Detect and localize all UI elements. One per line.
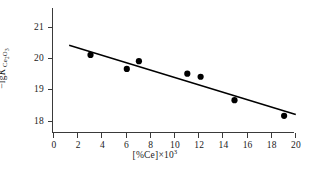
x-tick-10: 10 (174, 133, 175, 138)
x-tick-2: 2 (77, 133, 78, 138)
y-tick-21: 21 (48, 27, 53, 28)
data-point (198, 74, 204, 80)
x-tick-16: 16 (247, 133, 248, 138)
x-tick-14: 14 (222, 133, 223, 138)
x-tick-8: 8 (150, 133, 151, 138)
y-axis-title: −lgK′Ce2O3 (0, 48, 9, 88)
plot-svg (53, 8, 295, 133)
data-point (281, 113, 287, 119)
fit-line (70, 46, 295, 115)
y-axis-title-prime: ′ (0, 67, 4, 69)
y-axis-title-symbol: K (0, 69, 7, 76)
y-tick-label-18: 18 (34, 115, 44, 128)
x-axis-title-species: %Ce (136, 150, 155, 160)
chart-figure: 18192021 02468101214161820 −lgK′Ce2O3 [%… (0, 0, 310, 171)
plot-area: 18192021 02468101214161820 (52, 8, 294, 133)
data-point (136, 58, 142, 64)
x-tick-6: 6 (126, 133, 127, 138)
y-axis-title-minus: − (0, 83, 7, 89)
y-tick-20: 20 (48, 58, 53, 59)
x-tick-12: 12 (198, 133, 199, 138)
y-tick-label-21: 21 (34, 21, 44, 34)
y-tick-19: 19 (48, 89, 53, 90)
y-tick-18: 18 (48, 121, 53, 122)
y-tick-label-20: 20 (34, 52, 44, 65)
y-axis-title-subscript: Ce2O3 (1, 48, 8, 67)
data-points-group (87, 52, 287, 119)
x-axis-title-exponent: 3 (174, 148, 178, 155)
y-tick-label-19: 19 (34, 83, 44, 96)
x-tick-18: 18 (271, 133, 272, 138)
x-tick-20: 20 (295, 133, 296, 138)
x-axis-title: [%Ce]×103 (0, 149, 310, 162)
x-tick-0: 0 (53, 133, 54, 138)
x-axis-title-base: 10 (164, 150, 174, 160)
data-point (231, 97, 237, 103)
x-tick-4: 4 (101, 133, 102, 138)
fit-line-group (70, 46, 295, 115)
y-axis-title-lg: lg (0, 75, 7, 83)
data-point (124, 66, 130, 72)
data-point (184, 71, 190, 77)
data-point (87, 52, 93, 58)
